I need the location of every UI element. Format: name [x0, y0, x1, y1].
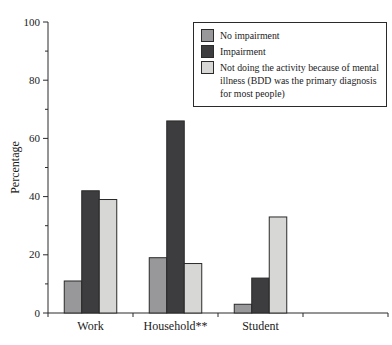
bar-student-no-impairment — [234, 304, 252, 313]
y-tick-label: 0 — [35, 307, 41, 319]
x-category-label: Household** — [144, 319, 208, 333]
y-axis-title: Percentage — [8, 141, 22, 194]
legend-item-impairment: Impairment — [201, 45, 380, 58]
legend-swatch-impairment — [201, 45, 214, 58]
legend-label-no-impairment: No impairment — [220, 29, 280, 42]
legend-label-impairment: Impairment — [220, 45, 266, 58]
legend-swatch-no-impairment — [201, 29, 214, 42]
legend: No impairment Impairment Not doing the a… — [193, 22, 387, 107]
legend-swatch-not-doing-activity — [201, 61, 214, 74]
bar-work-impairment — [82, 191, 100, 313]
y-tick-label: 40 — [29, 190, 41, 202]
bar-household-no-impairment — [149, 258, 167, 313]
y-tick-label: 80 — [29, 74, 41, 86]
bar-work-not-doing — [99, 200, 117, 313]
bar-work-no-impairment — [64, 281, 82, 313]
bar-student-impairment — [252, 278, 270, 313]
y-tick-label: 20 — [29, 248, 41, 260]
y-tick-label: 60 — [29, 132, 41, 144]
legend-item-not-doing-activity: Not doing the activity because of mental… — [201, 61, 380, 100]
bar-household-impairment — [167, 121, 185, 313]
x-category-label: Student — [242, 319, 279, 333]
bar-household-not-doing — [184, 264, 202, 313]
y-tick-label: 100 — [24, 16, 41, 28]
bar-student-not-doing — [269, 217, 287, 313]
x-category-label: Work — [77, 319, 103, 333]
bar-chart-figure: 020406080100WorkHousehold**StudentPercen… — [0, 0, 392, 345]
legend-item-no-impairment: No impairment — [201, 29, 380, 42]
legend-label-not-doing-activity: Not doing the activity because of mental… — [220, 61, 380, 100]
